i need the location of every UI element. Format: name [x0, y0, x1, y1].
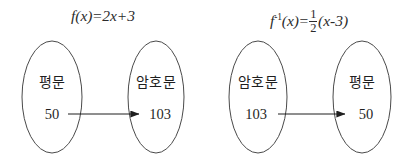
ellipse-source-ciphertext	[229, 41, 287, 153]
ellipse-source-plaintext	[22, 41, 82, 153]
figure-canvas: f(x)=2x+3 f-1(x)=12(x-3) 평문 50 암호문 103 암…	[0, 0, 412, 166]
ellipse-target-ciphertext	[128, 41, 184, 153]
value-source-plaintext: 50	[22, 107, 82, 122]
label-target-plaintext: 평문	[332, 75, 392, 89]
label-source-ciphertext: 암호문	[228, 75, 288, 89]
value-target-ciphertext: 103	[130, 107, 190, 122]
label-source-plaintext: 평문	[22, 75, 82, 89]
value-source-ciphertext: 103	[226, 107, 286, 122]
label-target-ciphertext: 암호문	[126, 75, 186, 89]
value-target-plaintext: 50	[336, 107, 396, 122]
ellipse-target-plaintext	[333, 41, 391, 153]
